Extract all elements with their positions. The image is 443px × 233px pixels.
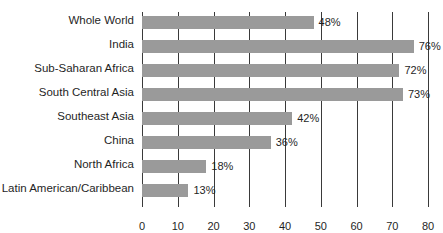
bar-india: [142, 40, 414, 53]
bar-southeast-asia: [142, 112, 292, 125]
tickmark-30: [249, 201, 250, 207]
tickmark-40: [285, 201, 286, 207]
x-tick-label-4: 40: [279, 220, 291, 233]
tickmark-50: [321, 201, 322, 207]
bar-south-central-asia: [142, 88, 403, 101]
x-tick-label-5: 50: [315, 220, 327, 233]
tickmark-80: [428, 201, 429, 207]
tickmark-20: [214, 201, 215, 207]
x-tick-label-6: 60: [350, 220, 362, 233]
y-axis-label-4: Southeast Asia: [0, 108, 134, 124]
x-tick-label-2: 20: [207, 220, 219, 233]
y-axis-label-1: India: [0, 36, 134, 52]
x-tick-label-8: 80: [422, 220, 434, 233]
bar-value-1: 76%: [414, 38, 441, 54]
y-axis-label-6: North Africa: [0, 156, 134, 172]
tickmark-70: [392, 201, 393, 207]
horizontal-bar-chart: Whole World India Sub-Saharan Africa Sou…: [0, 0, 443, 233]
tickmark-0: [142, 201, 143, 207]
bar-value-7: 13%: [188, 182, 215, 198]
x-tick-label-1: 10: [172, 220, 184, 233]
x-tick-label-3: 30: [243, 220, 255, 233]
bar-china: [142, 136, 271, 149]
bar-value-5: 36%: [271, 134, 298, 150]
y-axis-label-7: Latin American/Caribbean: [0, 180, 134, 196]
x-tick-label-7: 70: [386, 220, 398, 233]
tickmark-10: [178, 201, 179, 207]
y-axis-category-labels: Whole World India Sub-Saharan Africa Sou…: [0, 12, 138, 201]
y-axis-label-0: Whole World: [0, 12, 134, 28]
tickmark-60: [357, 201, 358, 207]
y-axis-label-2: Sub-Saharan Africa: [0, 60, 134, 76]
bar-value-6: 18%: [206, 158, 233, 174]
bar-value-3: 73%: [403, 86, 430, 102]
y-axis-label-5: China: [0, 132, 134, 148]
bar-value-0: 48%: [314, 14, 341, 30]
bar-latin-american-caribbean: [142, 184, 188, 197]
bar-sub-saharan-africa: [142, 64, 399, 77]
y-axis-label-3: South Central Asia: [0, 84, 134, 100]
bar-value-2: 72%: [399, 62, 426, 78]
plot-area: 48% 76% 72% 73% 42% 36% 18% 13%: [142, 12, 428, 201]
bar-value-4: 42%: [292, 110, 319, 126]
bar-whole-world: [142, 16, 314, 29]
x-tick-label-0: 0: [139, 220, 145, 233]
bar-north-africa: [142, 160, 206, 173]
